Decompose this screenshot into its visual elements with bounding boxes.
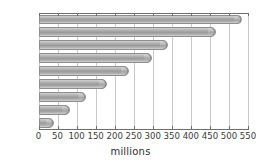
bar-1994: [39, 15, 243, 25]
x-axis-tick-label: 0: [36, 131, 41, 141]
axis-tick: [248, 13, 249, 16]
bar-1975: [39, 66, 130, 76]
axis-tick: [58, 126, 59, 129]
axis-tick: [39, 126, 40, 129]
gridline: [248, 13, 249, 129]
axis-tick: [134, 13, 135, 16]
axis-tick: [191, 126, 192, 129]
axis-tick: [172, 126, 173, 129]
axis-tick: [153, 126, 154, 129]
x-axis-tick-label: 100: [68, 131, 84, 141]
axis-tick: [115, 126, 116, 129]
x-axis-tick-label: 400: [183, 131, 199, 141]
x-axis-tick-label: 200: [106, 131, 122, 141]
axis-tick: [39, 13, 40, 16]
x-axis-tick-label: 550: [240, 131, 256, 141]
gridline: [229, 13, 230, 129]
axis-tick: [115, 13, 116, 16]
x-axis-tick-label: 350: [164, 131, 180, 141]
axis-tick: [58, 13, 59, 16]
x-axis-title: millions: [0, 146, 261, 157]
bar-chart: 1994 1990 1985 1980 1975 1970 1965 1960: [0, 0, 261, 165]
axis-tick: [248, 126, 249, 129]
bar-1950: [39, 118, 54, 128]
bar-1985: [39, 40, 169, 50]
axis-tick: [77, 13, 78, 16]
bar-1960: [39, 105, 71, 115]
x-axis-tick-label: 500: [221, 131, 237, 141]
bar-1965: [39, 92, 87, 102]
axis-tick: [210, 126, 211, 129]
bottom-axis-line: [39, 129, 249, 130]
axis-tick: [134, 126, 135, 129]
bar-1990: [39, 27, 216, 37]
x-axis-tick-label: 150: [87, 131, 103, 141]
top-axis-line: [39, 13, 249, 14]
axis-tick: [210, 13, 211, 16]
axis-tick: [96, 126, 97, 129]
axis-tick: [77, 126, 78, 129]
axis-tick: [229, 13, 230, 16]
axis-tick: [96, 13, 97, 16]
axis-tick: [191, 13, 192, 16]
axis-tick: [229, 126, 230, 129]
axis-tick: [172, 13, 173, 16]
bar-1970: [39, 79, 108, 89]
x-axis-tick-label: 50: [52, 131, 63, 141]
plot-area: 1994 1990 1985 1980 1975 1970 1965 1960: [39, 13, 249, 129]
bar-1980: [39, 53, 152, 63]
x-axis-tick-label: 300: [145, 131, 161, 141]
x-axis-tick-label: 250: [126, 131, 142, 141]
x-axis-tick-label: 450: [202, 131, 218, 141]
axis-tick: [153, 13, 154, 16]
